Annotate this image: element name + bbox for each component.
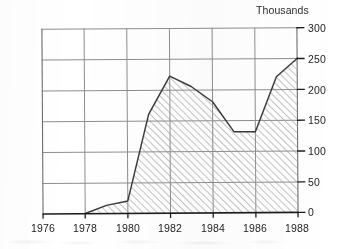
y-axis-label-100: 100 [308, 145, 326, 157]
chart-plot-area [0, 0, 337, 249]
y-axis-label-50: 50 [308, 176, 320, 188]
y-axis-label-200: 200 [308, 84, 326, 96]
x-axis-label-1978: 1978 [73, 222, 97, 234]
y-axis-label-300: 300 [308, 22, 326, 34]
x-axis-label-1988: 1988 [285, 222, 309, 234]
x-axis-label-1984: 1984 [201, 222, 225, 234]
x-axis-label-1980: 1980 [116, 222, 140, 234]
y-axis-label-150: 150 [308, 114, 326, 126]
area-chart: Thousands [0, 0, 337, 249]
x-axis-label-1976: 1976 [31, 222, 55, 234]
y-axis-label-250: 250 [308, 53, 326, 65]
x-axis-label-1982: 1982 [158, 222, 182, 234]
x-axis-label-1986: 1986 [243, 222, 267, 234]
y-axis-label-0: 0 [308, 206, 314, 218]
